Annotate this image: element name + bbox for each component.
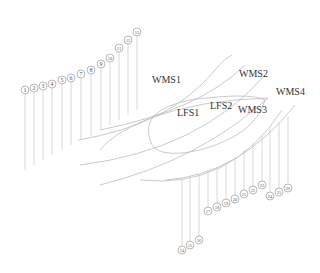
svg-text:25: 25 [277, 190, 282, 195]
svg-text:7: 7 [80, 71, 83, 77]
marker-23: 23 [258, 181, 266, 189]
marker-4: 4 [48, 80, 56, 88]
svg-text:19: 19 [224, 201, 229, 206]
marker-21: 21 [240, 190, 248, 198]
marker-10: 10 [106, 54, 114, 62]
svg-text:1: 1 [24, 87, 27, 93]
svg-text:26: 26 [286, 186, 291, 191]
marker-7: 7 [77, 70, 85, 78]
boundary-curve-3 [80, 75, 265, 165]
svg-text:20: 20 [233, 197, 238, 202]
marker-20: 20 [231, 195, 239, 203]
svg-text:18: 18 [215, 205, 220, 210]
region-label-lfs1: LFS1 [177, 108, 199, 118]
marker-1: 1 [21, 86, 29, 94]
marker-19: 19 [222, 199, 230, 207]
svg-text:17: 17 [206, 209, 211, 214]
svg-text:24: 24 [268, 194, 273, 199]
svg-text:5: 5 [61, 77, 64, 83]
marker-16: 16 [195, 236, 203, 244]
svg-text:11: 11 [117, 46, 121, 51]
region-label-wms4: WMS4 [276, 87, 305, 97]
svg-text:10: 10 [108, 56, 113, 61]
marker-25: 25 [275, 188, 283, 196]
marker-14: 14 [178, 246, 186, 254]
marker-2: 2 [30, 84, 38, 92]
marker-9: 9 [97, 60, 105, 68]
svg-text:14: 14 [180, 248, 185, 253]
svg-text:13: 13 [135, 30, 140, 35]
marker-18: 18 [213, 203, 221, 211]
marker-5: 5 [58, 76, 66, 84]
region-label-wms3: WMS3 [238, 105, 267, 115]
svg-text:15: 15 [188, 243, 193, 248]
svg-text:12: 12 [126, 38, 131, 43]
marker-22: 22 [249, 186, 257, 194]
diagram-svg: 1234567891011121314151617181920212223242… [0, 0, 320, 273]
marker-12: 12 [124, 36, 132, 44]
region-label-wms1: WMS1 [152, 75, 181, 85]
svg-text:8: 8 [90, 67, 93, 73]
marker-6: 6 [67, 74, 75, 82]
svg-text:4: 4 [51, 81, 54, 87]
svg-text:16: 16 [197, 238, 202, 243]
marker-3: 3 [39, 82, 47, 90]
region-label-wms2: WMS2 [239, 69, 268, 79]
marker-8: 8 [87, 66, 95, 74]
marker-26: 26 [284, 184, 292, 192]
marker-17: 17 [204, 207, 212, 215]
region-label-lfs2: LFS2 [210, 101, 232, 111]
svg-text:23: 23 [260, 183, 265, 188]
svg-text:9: 9 [100, 61, 103, 67]
svg-text:3: 3 [42, 83, 45, 89]
marker-11: 11 [115, 44, 123, 52]
marker-24: 24 [266, 192, 274, 200]
diagram-canvas: 1234567891011121314151617181920212223242… [0, 0, 320, 273]
svg-text:6: 6 [70, 75, 73, 81]
marker-13: 13 [133, 28, 141, 36]
marker-15: 15 [186, 241, 194, 249]
svg-text:2: 2 [33, 85, 36, 91]
svg-text:22: 22 [251, 188, 256, 193]
svg-text:21: 21 [242, 192, 247, 197]
